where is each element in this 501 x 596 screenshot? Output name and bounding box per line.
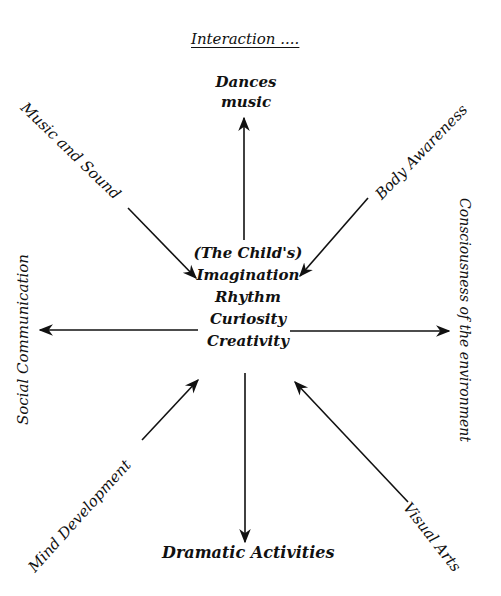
center-line-childs: (The Child's) xyxy=(186,242,310,264)
node-social-communication: Social Communication xyxy=(16,254,31,425)
interaction-diagram: Interaction .... Dances music (The Child… xyxy=(0,0,501,596)
arrow-to-visual-arts xyxy=(295,382,408,502)
center-line-creativity: Creativity xyxy=(186,330,310,352)
arrow-to-mind-development xyxy=(142,380,198,440)
center-node: (The Child's) Imagination Rhythm Curiosi… xyxy=(186,242,310,352)
node-dances-music: Dances music xyxy=(208,72,284,112)
node-music-label: music xyxy=(208,92,284,112)
center-line-curiosity: Curiosity xyxy=(186,308,310,330)
center-line-imagination: Imagination xyxy=(186,264,310,286)
node-dramatic-activities: Dramatic Activities xyxy=(162,545,334,561)
node-consciousness-of-environment: Consciousness of the environment xyxy=(458,198,472,442)
center-line-rhythm: Rhythm xyxy=(186,286,310,308)
diagram-title: Interaction .... xyxy=(191,32,299,47)
arrow-from-body-awareness xyxy=(300,198,368,276)
node-dances-label: Dances xyxy=(208,72,284,92)
